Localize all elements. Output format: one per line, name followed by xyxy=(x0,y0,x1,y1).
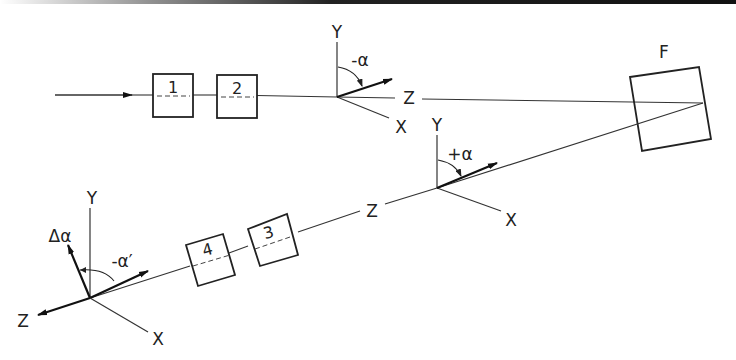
frame2-angle-label: +α xyxy=(447,144,472,164)
frame3-delta-arrow xyxy=(68,245,90,298)
target-F: F xyxy=(630,42,711,151)
frame2-x-axis xyxy=(437,188,501,211)
frame3-angle-label: -α′ xyxy=(111,251,132,271)
target-label: F xyxy=(659,42,669,62)
coordinate-frame-1: Y Z X -α xyxy=(331,22,703,137)
coordinate-frame-3: Y Δα -α′ Z X xyxy=(17,188,164,349)
frame3-polarization-arrow xyxy=(90,271,148,298)
frame1-z-axis xyxy=(337,97,395,98)
frame1-x-label: X xyxy=(395,117,407,137)
frame3-z-axis xyxy=(38,298,90,315)
beam-to-target xyxy=(422,99,703,103)
frame2-y-label: Y xyxy=(431,115,443,135)
frame2-z-axis xyxy=(385,188,437,204)
coordinate-frame-2: Y X +α Z xyxy=(298,115,517,232)
frame1-y-label: Y xyxy=(331,22,343,42)
frame1-x-axis xyxy=(337,97,389,118)
element-1-label: 1 xyxy=(168,78,178,97)
frame1-z-label: Z xyxy=(403,88,415,108)
optical-element-2: 2 xyxy=(217,75,257,118)
frame2-z-label: Z xyxy=(366,201,378,221)
optical-element-3: 3 xyxy=(248,214,298,266)
frame1-angle-label: -α xyxy=(351,50,368,70)
beam-segment-4-origin xyxy=(90,266,190,298)
frame3-z-label: Z xyxy=(17,311,29,331)
optical-element-4: 4 xyxy=(186,234,235,286)
element-2-label: 2 xyxy=(232,79,242,98)
reflected-beam xyxy=(437,103,703,188)
frame2-polarization-arrow xyxy=(437,163,497,188)
frame3-delta-label: Δα xyxy=(49,226,72,246)
optical-element-1: 1 xyxy=(153,74,193,117)
beam-segment-3-4 xyxy=(229,246,248,253)
frame3-x-label: X xyxy=(152,329,164,349)
frame3-y-label: Y xyxy=(86,188,98,208)
optical-beam-path-diagram: 1 2 Y Z X -α F Y X +α Z xyxy=(0,0,736,360)
frame3-x-axis xyxy=(90,298,148,332)
frame1-polarization-arrow xyxy=(337,79,392,97)
incoming-beam xyxy=(55,95,337,97)
frame2-x-label: X xyxy=(505,210,517,230)
